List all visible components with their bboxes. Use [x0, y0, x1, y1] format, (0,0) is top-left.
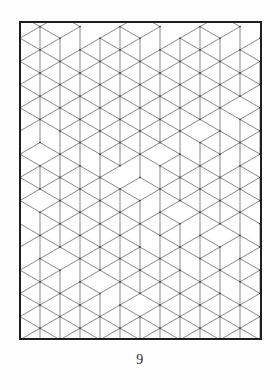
- page-number: 9: [0, 352, 280, 368]
- isometric-cube-pattern-svg: [19, 21, 262, 340]
- page-canvas: 9: [0, 0, 280, 390]
- illustration-plate: [19, 21, 262, 340]
